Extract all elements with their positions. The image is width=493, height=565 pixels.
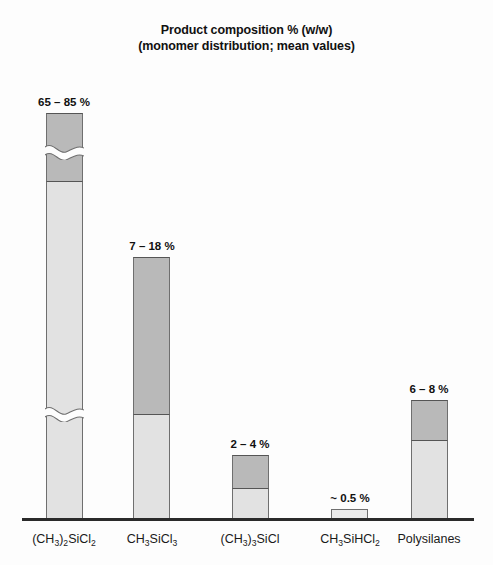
bar-ch3sicl3 (133, 257, 170, 519)
plot-area: 65 – 85 % (0, 0, 493, 525)
bar-5-segment-max (411, 400, 448, 440)
bar-2-segment-max (133, 257, 170, 414)
value-label-bar-3: 2 – 4 % (202, 438, 298, 450)
x-tick-label-polysilanes: Polysilanes (381, 532, 477, 546)
bar-3-segment-max (232, 455, 269, 488)
value-label-bar-5: 6 – 8 % (381, 383, 477, 395)
chart-page: Product composition % (w/w) (monomer dis… (0, 0, 493, 565)
bar-polysilanes (411, 400, 448, 519)
bar-3-segment-min (232, 488, 269, 519)
bar-2-segment-min (133, 414, 170, 519)
value-label-bar-2: 7 – 18 % (104, 240, 200, 252)
bar-5-segment-min (411, 440, 448, 519)
x-tick-label-ch3-3-sicl: (CH3)3SiCl (202, 532, 298, 546)
bar-ch3-2-sicl2 (46, 113, 83, 519)
bar-1-segment-min (46, 181, 83, 519)
x-tick-label-ch3-2-sicl2: (CH3)2SiCl2 (16, 532, 112, 546)
value-label-bar-4: ~ 0.5 % (302, 492, 398, 504)
x-tick-label-ch3sicl3: CH3SiCl3 (104, 532, 200, 546)
bar-ch3-3-sicl (232, 455, 269, 519)
x-axis-line (22, 518, 474, 521)
value-label-bar-1: 65 – 85 % (16, 96, 112, 108)
bar-1-segment-max (46, 113, 83, 181)
